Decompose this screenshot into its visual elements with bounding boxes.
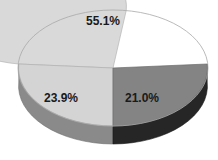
slice-label-55-1: 55.1% [86, 15, 120, 27]
slice-label-23-9: 23.9% [44, 92, 78, 104]
pie-chart: 55.1% 21.0% 23.9% [0, 0, 218, 160]
slice-label-21-0: 21.0% [125, 92, 159, 104]
